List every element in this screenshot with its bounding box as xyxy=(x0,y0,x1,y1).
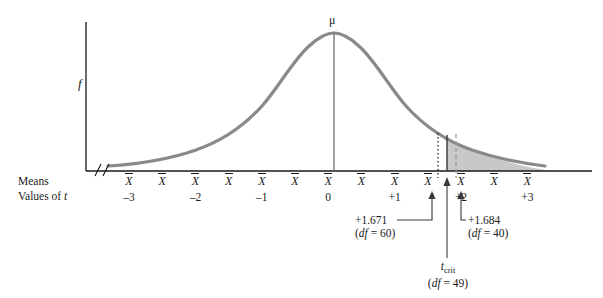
t-value-label: +2 xyxy=(455,192,467,204)
values-of-text: Values of xyxy=(18,190,64,202)
annotation-t-crit: tcrit (df = 49) xyxy=(412,260,484,290)
row-label-values-of-t: Values of t xyxy=(18,191,67,203)
row-label-means: Means xyxy=(18,176,49,188)
arrowhead-tcrit xyxy=(443,177,450,186)
xbar-tick: X xyxy=(391,173,399,187)
t-value-label: –2 xyxy=(190,192,202,204)
t-value-label: +1 xyxy=(388,192,400,204)
xbar-letter: X xyxy=(490,175,498,187)
xbar-letter: X xyxy=(225,175,233,187)
xbar-tick: X xyxy=(191,173,199,187)
t-value-label: +3 xyxy=(521,192,533,204)
xbar-letter: X xyxy=(357,175,365,187)
annotation-1671-df: (df = 60) xyxy=(355,227,395,240)
annotation-1684-df: (df = 40) xyxy=(468,227,508,240)
xbar-tick: X xyxy=(258,173,266,187)
xbar-tick: X xyxy=(125,173,133,187)
mu-label: μ xyxy=(329,14,335,26)
rejection-region-shade xyxy=(447,139,545,172)
t-distribution-figure: f μ Means Values of t XXXXXXXXXXXXX –3–2… xyxy=(0,0,603,298)
t-value-label: –1 xyxy=(256,192,268,204)
xbar-letter: X xyxy=(324,175,332,187)
xbar-letter: X xyxy=(125,175,133,187)
xbar-letter: X xyxy=(424,175,432,187)
xbar-letter: X xyxy=(258,175,266,187)
xbar-tick: X xyxy=(424,173,432,187)
annotation-1684-df-rest: = 40) xyxy=(481,227,509,239)
annotation-tcrit-subscript: crit xyxy=(444,265,455,275)
annotation-1671-value: +1.671 xyxy=(355,214,387,226)
xbar-tick: X xyxy=(291,173,299,187)
xbar-tick: X xyxy=(324,173,332,187)
xbar-tick: X xyxy=(225,173,233,187)
annotation-tcrit-df: (df = 49) xyxy=(412,277,484,290)
t-value-label: 0 xyxy=(325,192,331,204)
distribution-curve xyxy=(108,33,545,166)
xbar-letter: X xyxy=(457,175,465,187)
xbar-tick: X xyxy=(457,173,465,187)
annotation-t-1671: +1.671 (df = 60) xyxy=(355,214,395,240)
leader-line-1671 xyxy=(397,199,432,220)
distribution-chart-svg xyxy=(0,0,603,298)
xbar-letter: X xyxy=(523,175,531,187)
xbar-tick: X xyxy=(490,173,498,187)
xbar-tick: X xyxy=(523,173,531,187)
xbar-letter: X xyxy=(158,175,166,187)
arrowhead-1671 xyxy=(428,191,435,199)
t-value-label: –3 xyxy=(123,192,135,204)
annotation-1671-df-rest: = 60) xyxy=(368,227,396,239)
annotation-t-1684: +1.684 (df = 40) xyxy=(468,214,508,240)
annotation-1684-value: +1.684 xyxy=(468,214,500,226)
xbar-tick: X xyxy=(158,173,166,187)
xbar-letter: X xyxy=(291,175,299,187)
xbar-letter: X xyxy=(191,175,199,187)
y-axis-label: f xyxy=(78,77,82,90)
xbar-letter: X xyxy=(391,175,399,187)
annotation-tcrit-symbol: tcrit xyxy=(441,260,456,272)
xbar-tick: X xyxy=(357,173,365,187)
annotation-tcrit-df-rest: = 49) xyxy=(441,277,469,289)
t-variable: t xyxy=(64,190,67,202)
